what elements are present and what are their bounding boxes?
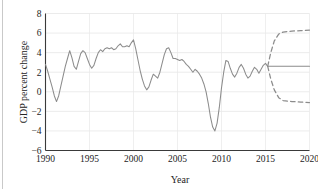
- x-axis-tick-labels: 1990199520002005201020152020: [36, 154, 318, 164]
- x-tick-label: 2020: [300, 154, 318, 164]
- x-tick-label: 2005: [168, 154, 187, 164]
- grid-lines: [46, 14, 310, 151]
- x-tick-label: 1995: [80, 154, 99, 164]
- y-tick-label: 2: [37, 68, 42, 78]
- y-tick-label: 6: [37, 28, 42, 38]
- x-tick-label: 2000: [124, 154, 143, 164]
- series-line-2: [268, 30, 310, 66]
- chart-figure: 1990199520002005201020152020 −6−4−202468…: [0, 0, 318, 189]
- series-line-0: [46, 40, 268, 131]
- y-tick-label: −6: [31, 146, 41, 156]
- series-line-3: [268, 66, 310, 102]
- y-tick-label: 4: [37, 48, 42, 58]
- y-tick-label: 8: [37, 9, 42, 19]
- y-tick-label: −4: [31, 126, 41, 136]
- y-tick-label: −2: [31, 107, 41, 117]
- gdp-percent-change-line-chart: 1990199520002005201020152020 −6−4−202468…: [0, 0, 318, 189]
- x-axis-title: Year: [171, 174, 190, 185]
- x-tick-label: 2015: [256, 154, 275, 164]
- y-axis-title: GDP percent change: [18, 40, 29, 123]
- y-axis-tick-labels: −6−4−202468: [31, 9, 41, 156]
- y-tick-label: 0: [37, 87, 42, 97]
- x-tick-label: 2010: [212, 154, 231, 164]
